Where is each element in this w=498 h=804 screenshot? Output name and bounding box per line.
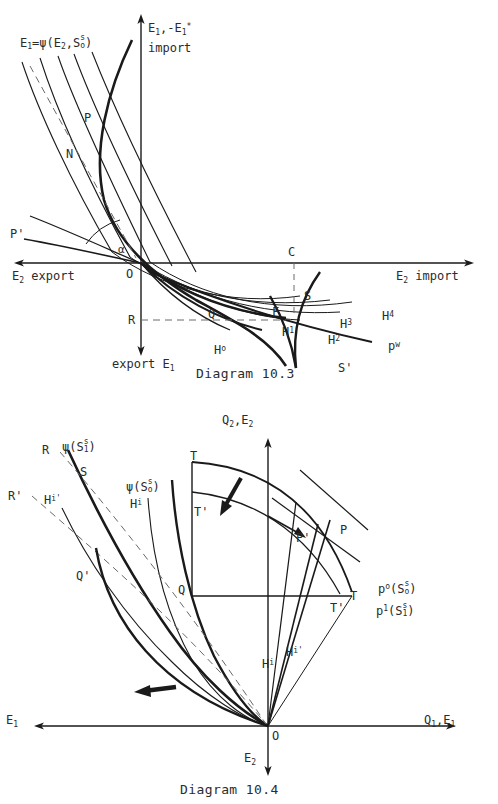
d3-price-line-pw xyxy=(150,272,372,342)
d3-price-line-pw-label: pw xyxy=(388,340,400,352)
d4-price-ray-p1 xyxy=(268,524,318,726)
d4-psi-S1-label: ψ(Ss1) xyxy=(62,438,96,453)
d4-point-T-prime-lower: T' xyxy=(330,602,344,614)
d4-point-Q: Q xyxy=(178,584,185,596)
d4-transformation-curve-inner xyxy=(192,492,340,594)
d3-axis-left-label: E2 export xyxy=(12,270,75,285)
diagram-10-3-graphics xyxy=(14,14,474,368)
d4-ray-steep xyxy=(268,502,296,726)
d4-psi-S1-curve xyxy=(68,450,268,726)
d3-point-R: R xyxy=(128,314,135,326)
d3-curve-S-prime-upper xyxy=(295,272,320,368)
d4-point-R: R xyxy=(42,444,49,456)
d3-point-P: P xyxy=(84,112,91,124)
d3-axis-up-label: E1,-E1* xyxy=(148,22,191,37)
d4-curve-Hi-prime-label: Hi' xyxy=(44,494,61,506)
d3-point-N: N xyxy=(66,148,73,160)
d4-price-ray-p0 xyxy=(268,520,330,726)
d3-axis-right-label: E2 import xyxy=(396,270,459,285)
d4-point-R-prime: R' xyxy=(8,490,22,502)
d4-tangent-upper xyxy=(300,470,368,530)
d4-point-P: P xyxy=(340,524,347,536)
d4-origin-label: O xyxy=(272,730,279,742)
d3-curve-H3-label: H3 xyxy=(340,318,352,330)
d4-point-T: T xyxy=(190,450,197,462)
d3-origin-label: O xyxy=(126,268,133,280)
figure-plate xyxy=(0,0,498,804)
d4-axis-down-label: E2 xyxy=(244,752,256,767)
d3-point-P-prime: P' xyxy=(10,228,24,240)
d4-psi-S0-label: ψ(Sso) xyxy=(126,478,160,493)
d3-curve-H2-label: H2 xyxy=(328,334,340,346)
d4-point-P-prime: P' xyxy=(296,532,310,544)
d3-point-S-prime: S' xyxy=(338,362,352,374)
d4-point-T-lower: T xyxy=(350,590,357,602)
d3-point-C: C xyxy=(288,246,295,258)
d3-psi-family-label: E1=ψ(E2,Sso) xyxy=(20,34,92,51)
d4-axis-left-label: E1 xyxy=(6,714,18,729)
d3-angle-alpha: α xyxy=(118,244,125,255)
d3-psi-curve-5 xyxy=(92,52,196,272)
d3-point-F: F xyxy=(272,306,279,318)
d4-point-T-prime: T' xyxy=(194,506,208,518)
d4-shift-arrow-lower-head xyxy=(134,685,151,697)
d3-point-Q: Q xyxy=(208,308,215,320)
d4-axis-up-label: Q2,E2 xyxy=(222,414,253,429)
d4-curve-Hi xyxy=(148,498,268,726)
d4-curve-Hi-prime-lower-label: Hi' xyxy=(286,646,303,658)
d3-caption: Diagram 10.3 xyxy=(196,366,295,381)
d4-price-p1-label: p1(Ss1) xyxy=(376,602,415,617)
d4-axis-right-label: Q1,E1 xyxy=(424,714,455,729)
d4-ray-to-T-prime xyxy=(268,596,352,726)
d3-curve-H0-label: Ho xyxy=(214,344,226,356)
d3-point-S: S xyxy=(304,290,311,302)
d4-point-S: S xyxy=(80,466,87,478)
d4-caption: Diagram 10.4 xyxy=(180,782,279,797)
d4-curve-Hi-label: Hi xyxy=(130,498,142,510)
d3-axis-down-label: export E1 xyxy=(112,358,175,373)
d3-axis-up-sublabel: import xyxy=(148,42,191,54)
d3-curve-H4-label: H4 xyxy=(382,310,394,322)
d3-curve-H1-label: H1 xyxy=(282,326,294,338)
d4-point-Q-prime: Q' xyxy=(76,570,90,582)
d4-price-p0-label: po(Sso) xyxy=(378,580,417,595)
d4-curve-Hi-lower-label: Hi xyxy=(262,658,274,670)
